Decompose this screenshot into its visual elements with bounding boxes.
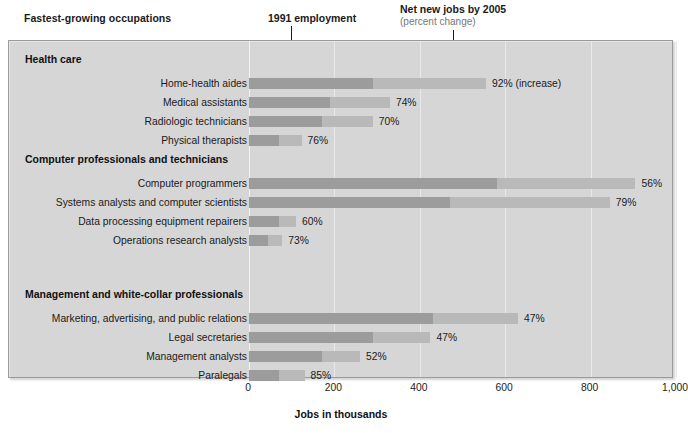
bar-segment-1991-employment: [249, 78, 373, 89]
x-tick-label: 600: [496, 382, 513, 393]
row-label: Marketing, advertising, and public relat…: [52, 312, 247, 326]
bar-segment-1991-employment: [249, 97, 330, 108]
bar-segment-1991-employment: [249, 235, 268, 246]
chart-row[interactable]: Data processing equipment repairers60%: [9, 215, 672, 229]
chart-row[interactable]: Management analysts52%: [9, 350, 672, 364]
bar-segment-1991-employment: [249, 351, 322, 362]
chart-row[interactable]: Home-health aides92% (increase): [9, 77, 672, 91]
bar-segment-1991-employment: [249, 116, 322, 127]
gridline-1000: [676, 41, 677, 377]
row-label: Data processing equipment repairers: [78, 215, 247, 229]
x-tick-label: 1,000: [662, 382, 688, 393]
page-title: Fastest-growing occupations: [24, 12, 171, 24]
annotation-1991-employment: 1991 employment: [268, 12, 356, 24]
bar-total[interactable]: [249, 332, 430, 343]
bar-segment-1991-employment: [249, 197, 450, 208]
row-label: Systems analysts and computer scientists: [56, 196, 247, 210]
chart-header: Fastest-growing occupations 1991 employm…: [0, 0, 682, 40]
chart-row[interactable]: Operations research analysts73%: [9, 234, 672, 248]
row-value-label: 74%: [396, 96, 417, 110]
row-label: Legal secretaries: [169, 331, 247, 345]
chart-rows: Health careHome-health aides92% (increas…: [9, 41, 672, 377]
row-value-label: 79%: [616, 196, 637, 210]
x-axis: 02004006008001,000: [0, 378, 682, 400]
row-label: Home-health aides: [161, 77, 247, 91]
bar-segment-1991-employment: [249, 313, 433, 324]
row-label: Management analysts: [146, 350, 247, 364]
x-tick-label: 400: [410, 382, 427, 393]
chart-row[interactable]: Systems analysts and computer scientists…: [9, 196, 672, 210]
bar-segment-1991-employment: [249, 135, 279, 146]
row-value-label: 70%: [379, 115, 400, 129]
x-tick-label: 0: [245, 382, 251, 393]
chart-row[interactable]: Radiologic technicians70%: [9, 115, 672, 129]
bar-total[interactable]: [249, 216, 296, 227]
bar-total[interactable]: [249, 235, 282, 246]
row-value-label: 56%: [641, 177, 662, 191]
bar-total[interactable]: [249, 135, 302, 146]
group-header: Health care: [25, 53, 82, 65]
bar-total[interactable]: [249, 313, 518, 324]
row-value-label: 47%: [436, 331, 457, 345]
chart-row[interactable]: Legal secretaries47%: [9, 331, 672, 345]
x-tick-label: 800: [581, 382, 598, 393]
bar-segment-1991-employment: [249, 332, 373, 343]
bar-total[interactable]: [249, 97, 390, 108]
row-label: Physical therapists: [161, 134, 247, 148]
row-label: Radiologic technicians: [145, 115, 247, 129]
row-value-label: 52%: [366, 350, 387, 364]
bar-total[interactable]: [249, 78, 486, 89]
row-value-label: 60%: [302, 215, 323, 229]
chart-row[interactable]: Marketing, advertising, and public relat…: [9, 312, 672, 326]
annotation-net-new-jobs-sub: (percent change): [400, 16, 506, 29]
annotation-net-new-jobs: Net new jobs by 2005 (percent change): [400, 3, 506, 28]
bar-total[interactable]: [249, 197, 610, 208]
row-value-label: 73%: [288, 234, 309, 248]
bar-segment-1991-employment: [249, 178, 497, 189]
bar-total[interactable]: [249, 351, 360, 362]
chart-plot-area: Health careHome-health aides92% (increas…: [8, 40, 673, 378]
row-value-label: 47%: [524, 312, 545, 326]
annotation-net-new-jobs-main: Net new jobs by 2005: [400, 3, 506, 15]
bar-total[interactable]: [249, 178, 635, 189]
x-axis-title: Jobs in thousands: [0, 408, 682, 420]
row-value-label: 92% (increase): [492, 77, 561, 91]
chart-row[interactable]: Medical assistants74%: [9, 96, 672, 110]
bar-segment-1991-employment: [249, 216, 279, 227]
bar-total[interactable]: [249, 116, 373, 127]
group-header: Management and white-collar professional…: [25, 288, 243, 300]
chart-row[interactable]: Computer programmers56%: [9, 177, 672, 191]
row-label: Operations research analysts: [113, 234, 247, 248]
row-value-label: 76%: [308, 134, 329, 148]
row-label: Computer programmers: [138, 177, 247, 191]
x-tick-label: 200: [325, 382, 342, 393]
row-label: Medical assistants: [163, 96, 247, 110]
chart-row[interactable]: Physical therapists76%: [9, 134, 672, 148]
group-header: Computer professionals and technicians: [25, 153, 228, 165]
